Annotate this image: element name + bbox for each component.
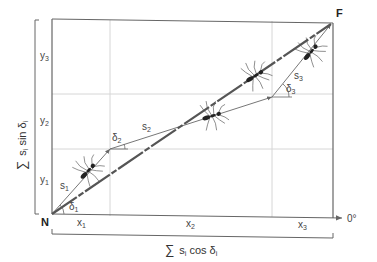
delta2-label: δ2 <box>112 132 122 144</box>
path-integration-diagram: N F 0° s1 s2 s3 δ1 δ2 δ3 x1 x2 x3 y1 y2 … <box>0 0 377 262</box>
frame <box>52 19 342 218</box>
end-label: F <box>336 7 343 19</box>
x1-label: x1 <box>77 217 86 229</box>
x2-label: x2 <box>186 218 195 230</box>
home-vector <box>52 24 331 214</box>
ant-icons <box>69 29 332 188</box>
y1-label: y1 <box>40 174 49 186</box>
delta1-label: δ1 <box>69 201 79 213</box>
x3-label: x3 <box>298 219 307 231</box>
y3-label: y3 <box>40 50 49 62</box>
s2-label: s2 <box>142 121 151 133</box>
y-axis-sum-label: ∑si sin δi <box>14 120 29 170</box>
s1-label: s1 <box>60 180 69 192</box>
direction-label: 0° <box>347 213 357 224</box>
y2-label: y2 <box>40 115 49 127</box>
x-axis-sum-label: ∑si cos δi <box>165 242 218 257</box>
delta3-label: δ3 <box>286 83 296 95</box>
s3-label: s3 <box>294 70 303 82</box>
start-label: N <box>41 216 49 228</box>
